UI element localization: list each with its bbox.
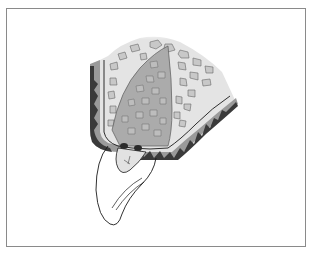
contact-point-right xyxy=(134,145,142,151)
tooth-crown xyxy=(116,148,146,173)
fade-overlay xyxy=(85,30,245,70)
contact-point-left xyxy=(120,143,128,149)
bone-graft-illustration xyxy=(0,0,314,254)
